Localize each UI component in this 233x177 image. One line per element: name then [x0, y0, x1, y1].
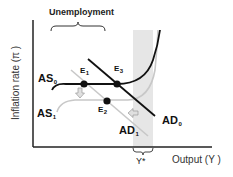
e3-label: E3 — [114, 65, 123, 74]
x-axis-label: Output (Y ) — [172, 154, 221, 165]
as0-label-main: AS — [38, 72, 53, 84]
point-e2 — [103, 97, 110, 104]
ad0-label-sub: 0 — [178, 121, 181, 127]
ad0-label-main: AD — [162, 114, 178, 126]
e2-label: E2 — [98, 106, 107, 115]
as0-label-sub: 0 — [54, 79, 57, 85]
as0-label: AS0 — [38, 73, 57, 85]
e1-label-main: E — [80, 66, 85, 75]
e2-label-main: E — [98, 105, 103, 114]
e2-label-sub: 2 — [104, 109, 107, 115]
ad0-label: AD0 — [162, 115, 182, 127]
as1-label: AS1 — [37, 108, 56, 120]
ad1-label: AD1 — [119, 125, 139, 137]
unemployment-label: Unemployment — [49, 8, 114, 17]
point-e3 — [113, 80, 120, 87]
e3-label-sub: 3 — [120, 68, 123, 74]
as1-label-sub: 1 — [53, 114, 56, 120]
down-arrow-icon — [76, 88, 85, 98]
y-axis-label: Inflation rate (π ) — [10, 46, 21, 120]
potential-output-brace — [133, 148, 153, 155]
unemployment-brace — [51, 22, 105, 31]
as1-label-main: AS — [37, 107, 52, 119]
ad1-label-sub: 1 — [135, 131, 138, 137]
ad1-label-main: AD — [119, 124, 135, 136]
as-ad-diagram: Inflation rate (π ) Output (Y ) Unemploy… — [0, 0, 233, 177]
e1-label-sub: 1 — [86, 70, 89, 76]
potential-output-label: Y* — [136, 157, 146, 166]
point-e1 — [80, 80, 87, 87]
e3-label-main: E — [114, 64, 119, 73]
e1-label: E1 — [80, 67, 89, 76]
